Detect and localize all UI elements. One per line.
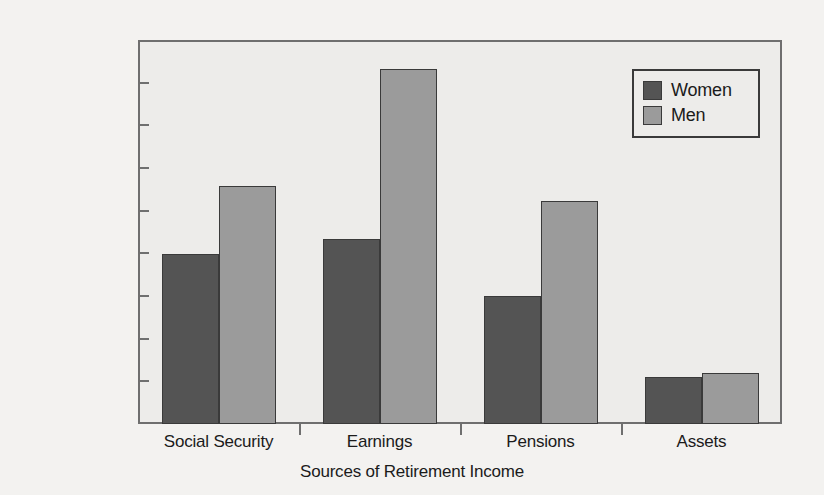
bar-women-social-security xyxy=(162,254,219,424)
bar-women-earnings xyxy=(323,239,380,424)
legend-label-women: Women xyxy=(671,80,732,101)
x-group-separator xyxy=(460,424,462,435)
bar-women-assets xyxy=(645,377,702,424)
x-group-separator xyxy=(299,424,301,435)
bar-men-assets xyxy=(702,373,759,424)
legend-item-women: Women xyxy=(643,78,749,103)
legend-label-men: Men xyxy=(671,105,705,126)
bar-men-pensions xyxy=(541,201,598,424)
x-tick-label: Pensions xyxy=(506,432,574,452)
bar-men-earnings xyxy=(380,69,437,424)
x-tick-label: Social Security xyxy=(164,432,273,452)
y-axis: $0$2,000$4,000$6,000$8,000$10,000$12,000… xyxy=(0,0,138,495)
x-group-separator xyxy=(621,424,623,435)
x-tick-label: Earnings xyxy=(347,432,413,452)
legend-swatch-men xyxy=(643,106,662,125)
legend-swatch-women xyxy=(643,81,662,100)
bar-men-social-security xyxy=(219,186,276,424)
chart-legend: Women Men xyxy=(632,69,760,138)
bar-chart-figure: $0$2,000$4,000$6,000$8,000$10,000$12,000… xyxy=(0,0,824,495)
legend-item-men: Men xyxy=(643,103,749,128)
bar-women-pensions xyxy=(484,296,541,424)
x-axis-title: Sources of Retirement Income xyxy=(0,462,824,482)
x-tick-label: Assets xyxy=(677,432,727,452)
